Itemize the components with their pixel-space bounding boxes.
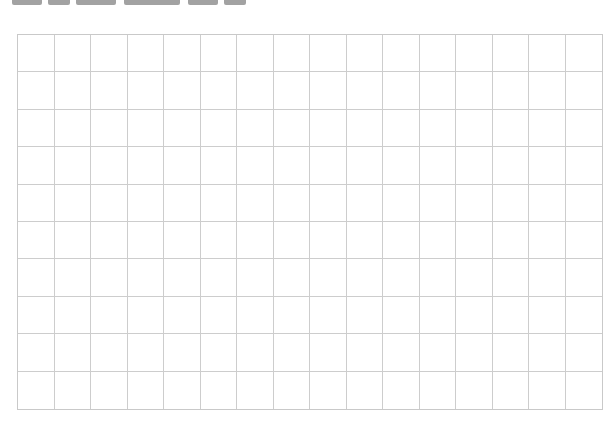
- grid-cell: [347, 72, 384, 109]
- grid-cell: [310, 72, 347, 109]
- grid-cell: [237, 147, 274, 184]
- grid-cell: [237, 222, 274, 259]
- grid-cell: [201, 185, 238, 222]
- grid-cell: [201, 35, 238, 72]
- grid-cell: [91, 372, 128, 409]
- grid-cell: [566, 297, 603, 334]
- grid-cell: [383, 35, 420, 72]
- grid-cell: [493, 259, 530, 296]
- grid-cell: [529, 372, 566, 409]
- grid-cell: [18, 147, 55, 184]
- heading-fragment: [12, 0, 42, 5]
- grid-cell: [274, 222, 311, 259]
- grid-cell: [164, 297, 201, 334]
- grid-cell: [18, 297, 55, 334]
- grid-cell: [128, 110, 165, 147]
- grid-cell: [201, 334, 238, 371]
- grid-cell: [164, 222, 201, 259]
- grid-cell: [164, 372, 201, 409]
- grid-cell: [55, 185, 92, 222]
- grid-cell: [347, 297, 384, 334]
- grid-cell: [383, 372, 420, 409]
- grid-cell: [18, 185, 55, 222]
- grid-cell: [55, 297, 92, 334]
- grid-cell: [237, 297, 274, 334]
- grid-cell: [493, 334, 530, 371]
- grid-cell: [18, 334, 55, 371]
- grid-cell: [456, 372, 493, 409]
- grid-cell: [383, 110, 420, 147]
- grid-cell: [164, 259, 201, 296]
- grid-cell: [529, 110, 566, 147]
- heading-fragment: [48, 0, 70, 5]
- grid-cell: [347, 372, 384, 409]
- grid-cell: [274, 185, 311, 222]
- grid-cell: [420, 334, 457, 371]
- grid-cell: [91, 297, 128, 334]
- grid-cell: [529, 35, 566, 72]
- grid-cell: [493, 35, 530, 72]
- grid-cell: [274, 297, 311, 334]
- grid-cell: [420, 147, 457, 184]
- grid-cell: [529, 72, 566, 109]
- grid-cell: [91, 185, 128, 222]
- grid-cell: [237, 185, 274, 222]
- grid-cell: [128, 147, 165, 184]
- grid-cell: [420, 185, 457, 222]
- grid-cell: [55, 147, 92, 184]
- grid-cell: [91, 147, 128, 184]
- grid-cell: [201, 297, 238, 334]
- grid-cell: [493, 110, 530, 147]
- grid-cell: [566, 35, 603, 72]
- grid-cell: [18, 222, 55, 259]
- grid-cell: [383, 259, 420, 296]
- grid-cell: [237, 110, 274, 147]
- grid-cell: [310, 334, 347, 371]
- grid-cell: [347, 222, 384, 259]
- grid-cell: [456, 297, 493, 334]
- grid-cell: [566, 222, 603, 259]
- grid-cell: [310, 372, 347, 409]
- grid-cell: [310, 222, 347, 259]
- grid-cell: [128, 372, 165, 409]
- grid-cell: [164, 334, 201, 371]
- grid-cell: [456, 110, 493, 147]
- grid-cell: [529, 222, 566, 259]
- grid-cell: [18, 110, 55, 147]
- grid-cell: [164, 110, 201, 147]
- grid-cell: [383, 334, 420, 371]
- grid-cell: [55, 72, 92, 109]
- grid-cell: [420, 35, 457, 72]
- grid-cell: [347, 110, 384, 147]
- grid-cell: [164, 72, 201, 109]
- grid-cell: [310, 35, 347, 72]
- grid-cell: [529, 185, 566, 222]
- grid-cell: [420, 72, 457, 109]
- grid-cell: [128, 334, 165, 371]
- grid-cell: [274, 259, 311, 296]
- heading-fragment: [188, 0, 218, 5]
- grid-cell: [18, 72, 55, 109]
- grid-cell: [566, 72, 603, 109]
- grid-cell: [91, 259, 128, 296]
- grid-cell: [164, 35, 201, 72]
- grid-cell: [128, 35, 165, 72]
- grid-cell: [456, 35, 493, 72]
- grid-cell: [493, 372, 530, 409]
- grid-cell: [201, 372, 238, 409]
- grid-cell: [310, 259, 347, 296]
- grid-cell: [237, 35, 274, 72]
- grid-cell: [274, 72, 311, 109]
- grid-cell: [55, 222, 92, 259]
- grid-cell: [164, 147, 201, 184]
- grid-cell: [420, 222, 457, 259]
- grid-cell: [456, 72, 493, 109]
- grid-cell: [566, 259, 603, 296]
- grid-cell: [91, 222, 128, 259]
- grid-cell: [274, 334, 311, 371]
- grid-cell: [55, 372, 92, 409]
- grid-cell: [274, 372, 311, 409]
- grid-cell: [310, 110, 347, 147]
- grid-cell: [456, 334, 493, 371]
- grid-cell: [128, 259, 165, 296]
